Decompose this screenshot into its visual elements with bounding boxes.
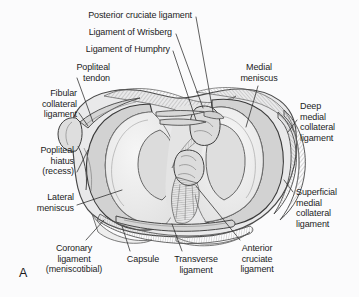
label-medial-meniscus: Medial meniscus (228, 62, 290, 83)
label-popliteal-hiatus-recess: Popliteal hiatus (recess) (10, 145, 74, 177)
label-deep-medial-collateral-ligament: Deep medial collateral ligament (300, 101, 358, 143)
label-coronary-ligament-meniscotibial: Coronary ligament (meniscotibial) (33, 243, 115, 275)
label-superficial-medial-collateral-ligament: Superficial medial collateral ligament (296, 187, 358, 229)
label-lateral-meniscus: Lateral meniscus (8, 192, 74, 213)
label-posterior-cruciate-ligament: Posterior cruciate ligament (42, 10, 192, 21)
label-fibular-collateral-ligament: Fibular collateral ligament (12, 88, 77, 120)
anatomical-figure: Posterior cruciate ligament Ligament of … (0, 0, 359, 297)
label-capsule: Capsule (119, 254, 167, 265)
label-ligament-of-humphry: Ligament of Humphry (32, 44, 170, 55)
label-transverse-ligament: Transverse ligament (165, 254, 227, 275)
label-ligament-of-wrisberg: Ligament of Wrisberg (42, 27, 172, 38)
label-popliteal-tendon: Popliteal tendon (48, 62, 110, 83)
label-anterior-cruciate-ligament: Anterior cruciate ligament (228, 243, 286, 275)
panel-letter: A (19, 266, 27, 280)
